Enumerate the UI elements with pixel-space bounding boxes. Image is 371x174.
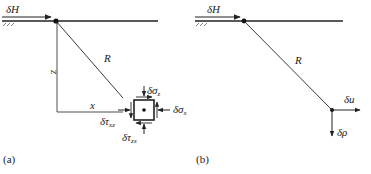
sigma-x-label: δσx bbox=[173, 103, 188, 117]
disp-rho-label: δρ bbox=[337, 126, 347, 138]
load-label-dh-b: δH bbox=[207, 3, 221, 15]
stress-element bbox=[118, 86, 170, 134]
panel-a: δH R z x δσz δσx bbox=[2, 3, 188, 166]
radius-label: R bbox=[103, 52, 111, 64]
panel-b: δH R δu δρ (b) bbox=[195, 3, 360, 166]
sigma-z-label: δσz bbox=[147, 84, 161, 98]
radius-line-b bbox=[244, 21, 332, 110]
disp-u-label: δu bbox=[344, 93, 355, 105]
tau-xz-label: δτxz bbox=[100, 115, 115, 129]
panel-a-caption: (a) bbox=[3, 153, 16, 166]
radius-label-b: R bbox=[294, 54, 302, 66]
ground-hatch-icon bbox=[3, 23, 14, 26]
load-label-dh: δH bbox=[6, 3, 20, 15]
diagram-canvas: δH R z x δσz δσx bbox=[0, 0, 371, 174]
tau-zx-label: δτzx bbox=[122, 131, 138, 145]
depth-label: z bbox=[49, 69, 61, 75]
offset-label: x bbox=[89, 99, 95, 111]
radius-line bbox=[56, 21, 123, 98]
panel-b-caption: (b) bbox=[196, 153, 209, 166]
ground-hatch-icon bbox=[196, 23, 207, 26]
